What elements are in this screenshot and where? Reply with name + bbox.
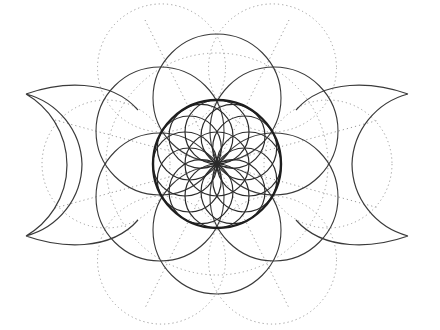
sacred-geometry-diagram bbox=[0, 0, 440, 330]
left-crescent-moon bbox=[26, 85, 138, 245]
